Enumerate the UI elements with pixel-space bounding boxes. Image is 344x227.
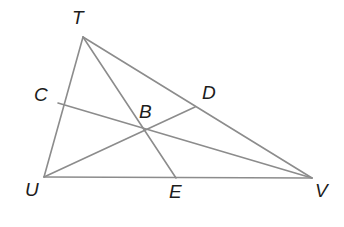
side-TV — [83, 37, 312, 178]
point-label-B: B — [139, 102, 152, 121]
side-UV — [44, 177, 312, 178]
median-UD — [44, 107, 195, 177]
segment-group — [44, 37, 312, 178]
geometry-figure: T U V C D E B — [0, 0, 344, 227]
point-label-T: T — [72, 8, 84, 27]
point-label-D: D — [202, 83, 216, 102]
point-label-C: C — [34, 85, 48, 104]
side-TU — [44, 37, 83, 177]
point-label-E: E — [169, 182, 182, 201]
point-label-V: V — [315, 181, 328, 200]
median-TE — [83, 37, 176, 178]
point-label-U: U — [25, 180, 39, 199]
median-VC — [58, 103, 312, 178]
